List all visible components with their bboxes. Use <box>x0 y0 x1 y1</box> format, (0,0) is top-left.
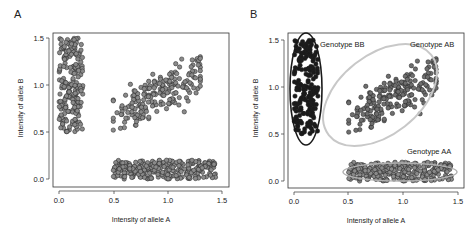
data-point <box>425 75 429 79</box>
y-axis-title: Intensity of allele B <box>252 78 260 137</box>
data-point <box>128 82 132 86</box>
data-point <box>152 86 156 90</box>
data-point <box>180 85 184 89</box>
data-point <box>412 166 416 170</box>
data-point <box>57 105 61 109</box>
data-point <box>177 65 181 69</box>
data-point <box>76 57 80 61</box>
data-point <box>358 127 362 131</box>
data-point <box>201 175 205 179</box>
x-tick: 0.5 <box>343 197 353 206</box>
data-point <box>358 122 362 126</box>
data-point <box>168 97 172 101</box>
data-point <box>66 109 70 113</box>
data-point <box>180 57 184 61</box>
x-tick: 0.0 <box>54 196 64 205</box>
data-point <box>128 167 132 171</box>
data-point <box>388 88 392 92</box>
y-tick: 0.5 <box>34 128 44 137</box>
data-point <box>192 86 196 90</box>
data-point <box>149 176 153 180</box>
data-point <box>182 110 186 114</box>
data-point <box>79 42 83 46</box>
data-point <box>146 95 150 99</box>
data-point <box>300 121 304 125</box>
y-axis: 1.5 1.0 0.5 0.0 Intensity of allele B <box>17 34 49 184</box>
data-point <box>177 164 181 168</box>
data-point <box>386 74 390 78</box>
data-point <box>194 91 198 95</box>
data-point <box>427 170 431 174</box>
data-point <box>196 63 200 67</box>
data-point <box>311 77 315 81</box>
data-point <box>299 107 303 111</box>
data-point <box>400 160 404 164</box>
data-point <box>409 63 413 67</box>
y-tick: 1.5 <box>269 36 279 45</box>
data-point <box>169 75 173 79</box>
x-tick: 0.5 <box>109 196 119 205</box>
data-point <box>177 159 181 163</box>
data-point <box>403 99 407 103</box>
data-point <box>307 40 311 44</box>
data-point <box>368 91 372 95</box>
x-tick: 1.0 <box>163 196 173 205</box>
data-point <box>115 111 119 115</box>
data-point <box>164 158 168 162</box>
data-point <box>397 95 401 99</box>
data-point <box>174 173 178 177</box>
data-point <box>365 112 369 116</box>
data-point <box>130 105 134 109</box>
y-tick: 0.5 <box>269 130 279 139</box>
data-point <box>176 84 180 88</box>
data-point <box>436 168 440 172</box>
data-point <box>164 78 168 82</box>
y-tick: 1.0 <box>269 83 279 92</box>
data-point <box>311 98 315 102</box>
data-point <box>62 44 66 48</box>
data-point <box>72 38 76 42</box>
data-point <box>359 108 363 112</box>
data-point <box>193 176 197 180</box>
data-point <box>78 122 82 126</box>
y-tick: 0.0 <box>34 175 44 184</box>
data-point <box>147 115 151 119</box>
data-point <box>68 65 72 69</box>
data-point <box>377 100 381 104</box>
y-tick: 1.5 <box>34 34 44 43</box>
data-point <box>354 114 358 118</box>
data-point <box>160 170 164 174</box>
data-point <box>212 162 216 166</box>
data-point <box>147 79 151 83</box>
data-point <box>73 83 77 87</box>
data-point <box>294 115 298 119</box>
data-point <box>111 174 115 178</box>
data-point <box>406 167 410 171</box>
data-point <box>134 119 138 123</box>
data-point <box>413 67 417 71</box>
data-point <box>170 85 174 89</box>
data-point <box>302 51 306 55</box>
data-point <box>378 89 382 93</box>
data-point <box>63 105 67 109</box>
data-point <box>401 175 405 179</box>
data-point <box>190 58 194 62</box>
data-point <box>59 126 63 130</box>
data-point <box>308 119 312 123</box>
data-point <box>308 93 312 97</box>
data-point <box>363 169 367 173</box>
data-point <box>186 163 190 167</box>
data-point <box>293 94 297 98</box>
data-point <box>186 99 190 103</box>
data-point <box>307 73 311 77</box>
data-point <box>192 168 196 172</box>
data-point <box>147 171 151 175</box>
data-point <box>60 79 64 83</box>
data-point <box>391 174 395 178</box>
data-point <box>111 99 115 103</box>
data-point <box>293 101 297 105</box>
data-point <box>361 112 365 116</box>
data-point <box>365 103 369 107</box>
x-axis-title: Intensity of allele A <box>347 217 406 225</box>
data-point <box>58 92 62 96</box>
